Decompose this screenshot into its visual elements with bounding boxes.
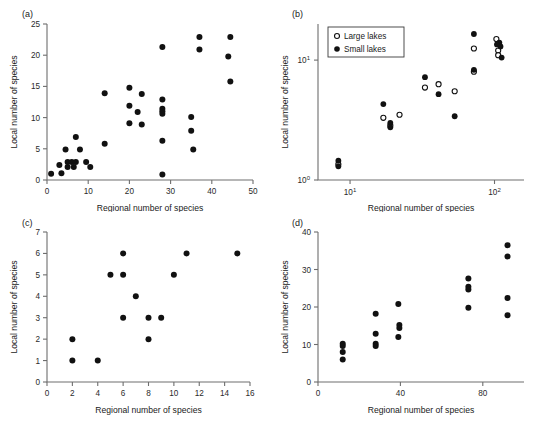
panel-c: (c)024681012141601234567Regional number …: [0, 210, 268, 424]
figure-scatter-panels: (a)010203040500510152025Regional number …: [0, 0, 537, 424]
svg-text:20: 20: [125, 187, 135, 196]
svg-text:5: 5: [35, 145, 40, 154]
data-point: [95, 358, 101, 364]
data-point: [120, 250, 126, 256]
data-point: [380, 101, 386, 107]
panel-c-plot: (c)024681012141601234567Regional number …: [0, 210, 268, 424]
panel-label: (b): [292, 9, 303, 19]
axis-ticks: 04080010203040: [302, 228, 488, 398]
data-point: [196, 47, 202, 53]
data-point: [234, 250, 240, 256]
data-point: [135, 109, 141, 115]
legend-marker-filled: [334, 46, 340, 52]
data-point: [159, 97, 165, 103]
legend-label: Large lakes: [344, 32, 386, 41]
data-point: [387, 124, 393, 130]
data-point: [465, 305, 471, 311]
data-point: [184, 250, 190, 256]
data-point: [452, 89, 457, 94]
panel-d-plot: (d)04080010203040Regional number of spec…: [268, 210, 537, 424]
data-point: [159, 138, 165, 144]
data-point: [73, 134, 79, 140]
svg-text:14: 14: [220, 389, 230, 398]
data-point: [63, 146, 69, 152]
data-point: [102, 141, 108, 147]
data-point: [146, 336, 152, 342]
legend: Large lakesSmall lakes: [328, 27, 404, 57]
legend-label: Small lakes: [344, 45, 386, 54]
data-point: [395, 301, 401, 307]
legend-marker-open: [335, 34, 340, 39]
data-point: [126, 120, 132, 126]
data-point: [397, 112, 402, 117]
data-point: [120, 272, 126, 278]
data-point: [48, 171, 54, 177]
svg-text:10: 10: [169, 389, 179, 398]
panel-d: (d)04080010203040Regional number of spec…: [268, 210, 537, 424]
data-point: [65, 164, 71, 170]
svg-text:3: 3: [35, 314, 40, 323]
svg-text:0: 0: [35, 378, 40, 387]
data-point: [335, 158, 341, 164]
data-point: [465, 276, 471, 282]
data-point: [159, 111, 165, 117]
svg-text:2: 2: [35, 335, 40, 344]
y-axis-label: Local number of species: [9, 260, 19, 353]
svg-text:16: 16: [245, 389, 255, 398]
panel-b: (b)101102100101Regional number of specie…: [268, 0, 537, 212]
data-point: [471, 67, 477, 73]
svg-text:8: 8: [146, 389, 151, 398]
panel-a-plot: (a)010203040500510152025Regional number …: [0, 0, 268, 212]
svg-text:0: 0: [45, 389, 50, 398]
svg-text:80: 80: [478, 389, 488, 398]
data-point: [69, 336, 75, 342]
data-point: [335, 163, 341, 169]
svg-text:1: 1: [35, 357, 40, 366]
data-point: [69, 358, 75, 364]
data-point: [56, 162, 62, 168]
svg-text:30: 30: [166, 187, 176, 196]
svg-text:40: 40: [396, 389, 406, 398]
data-point: [422, 74, 428, 80]
svg-text:7: 7: [35, 228, 40, 237]
svg-text:30: 30: [302, 266, 312, 275]
x-axis-label: Regional number of species: [95, 405, 202, 415]
svg-text:101: 101: [344, 187, 357, 197]
data-point: [340, 343, 346, 349]
data-point: [188, 114, 194, 120]
panel-label: (a): [22, 9, 33, 19]
data-point: [188, 128, 194, 134]
data-point: [373, 343, 379, 349]
svg-text:100: 100: [298, 175, 311, 185]
data-point: [87, 164, 93, 170]
axis-ticks: 024681012141601234567: [35, 228, 255, 398]
data-point: [139, 121, 145, 127]
data-point: [133, 293, 139, 299]
data-point: [227, 34, 233, 40]
axis-lines: [47, 232, 250, 382]
data-point: [159, 171, 165, 177]
svg-text:10: 10: [31, 114, 41, 123]
svg-text:12: 12: [195, 389, 205, 398]
data-point: [373, 331, 379, 337]
y-axis-label: Local number of species: [280, 55, 290, 148]
svg-text:40: 40: [302, 228, 312, 237]
panel-label: (c): [22, 218, 33, 228]
svg-text:5: 5: [35, 271, 40, 280]
panel-a: (a)010203040500510152025Regional number …: [0, 0, 268, 212]
svg-text:2: 2: [70, 389, 75, 398]
data-point: [494, 42, 500, 48]
data-points: [48, 34, 233, 177]
svg-text:102: 102: [488, 187, 501, 197]
data-point: [227, 78, 233, 84]
data-point: [452, 113, 458, 119]
svg-text:6: 6: [35, 249, 40, 258]
data-point: [396, 325, 402, 331]
data-point: [465, 286, 471, 292]
data-point: [471, 31, 477, 37]
data-point: [340, 357, 346, 363]
svg-text:50: 50: [248, 187, 258, 196]
svg-text:0: 0: [35, 176, 40, 185]
axis-lines: [318, 232, 524, 382]
svg-text:15: 15: [31, 82, 41, 91]
